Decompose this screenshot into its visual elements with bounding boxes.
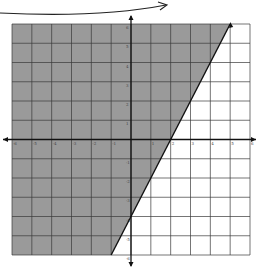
coordinate-plane: -6-5-4-3-2-1123456-6-5-4-3-2-1123456 bbox=[0, 0, 258, 274]
svg-text:-2: -2 bbox=[92, 141, 96, 146]
svg-text:-5: -5 bbox=[126, 237, 130, 242]
curved-arrow-annotation bbox=[0, 2, 167, 14]
svg-text:4: 4 bbox=[211, 141, 214, 146]
svg-text:1: 1 bbox=[126, 121, 129, 126]
svg-text:-3: -3 bbox=[73, 141, 77, 146]
svg-text:-1: -1 bbox=[126, 160, 130, 165]
svg-text:6: 6 bbox=[251, 141, 254, 146]
svg-text:5: 5 bbox=[231, 141, 234, 146]
svg-text:-3: -3 bbox=[126, 198, 130, 203]
svg-text:2: 2 bbox=[172, 141, 175, 146]
svg-text:-6: -6 bbox=[13, 141, 17, 146]
svg-text:-6: -6 bbox=[126, 256, 130, 261]
svg-text:1: 1 bbox=[152, 141, 155, 146]
svg-text:-1: -1 bbox=[112, 141, 116, 146]
svg-text:-5: -5 bbox=[33, 141, 37, 146]
svg-text:3: 3 bbox=[192, 141, 195, 146]
svg-text:-4: -4 bbox=[53, 141, 57, 146]
svg-text:-2: -2 bbox=[126, 179, 130, 184]
